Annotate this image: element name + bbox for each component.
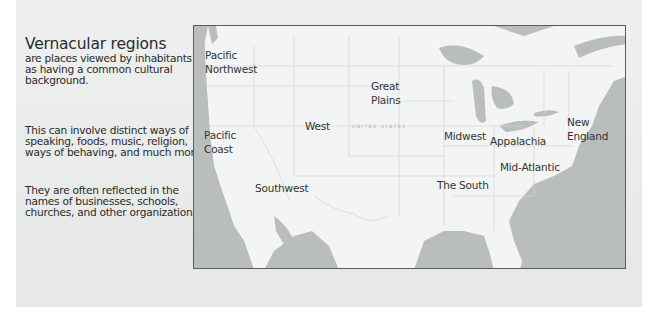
region-label-pacific-coast: Pacific Coast	[204, 129, 236, 156]
definition-paragraph: are places viewed by inhabitants as havi…	[25, 53, 200, 85]
region-label-new-england: New England	[567, 116, 608, 143]
region-label-the-south: The South	[437, 179, 489, 193]
region-label-midwest: Midwest	[444, 130, 486, 144]
us-regions-map: UNITED STATES Pacific Northwest Pacific …	[193, 25, 626, 269]
map-graphic	[194, 26, 626, 269]
region-label-mid-atlantic: Mid-Atlantic	[500, 161, 560, 175]
text-column: Vernacular regions are places viewed by …	[25, 36, 200, 85]
region-label-great-plains: Great Plains	[371, 80, 401, 107]
region-label-southwest: Southwest	[255, 182, 308, 196]
examples-paragraph: This can involve distinct ways of speaki…	[25, 125, 205, 157]
slide-title: Vernacular regions	[25, 36, 200, 53]
country-label: UNITED STATES	[352, 124, 406, 129]
region-label-appalachia: Appalachia	[490, 135, 546, 149]
region-label-west: West	[305, 120, 330, 134]
region-label-pacific-northwest: Pacific Northwest	[205, 49, 257, 76]
names-paragraph: They are often reflected in the names of…	[25, 185, 205, 217]
